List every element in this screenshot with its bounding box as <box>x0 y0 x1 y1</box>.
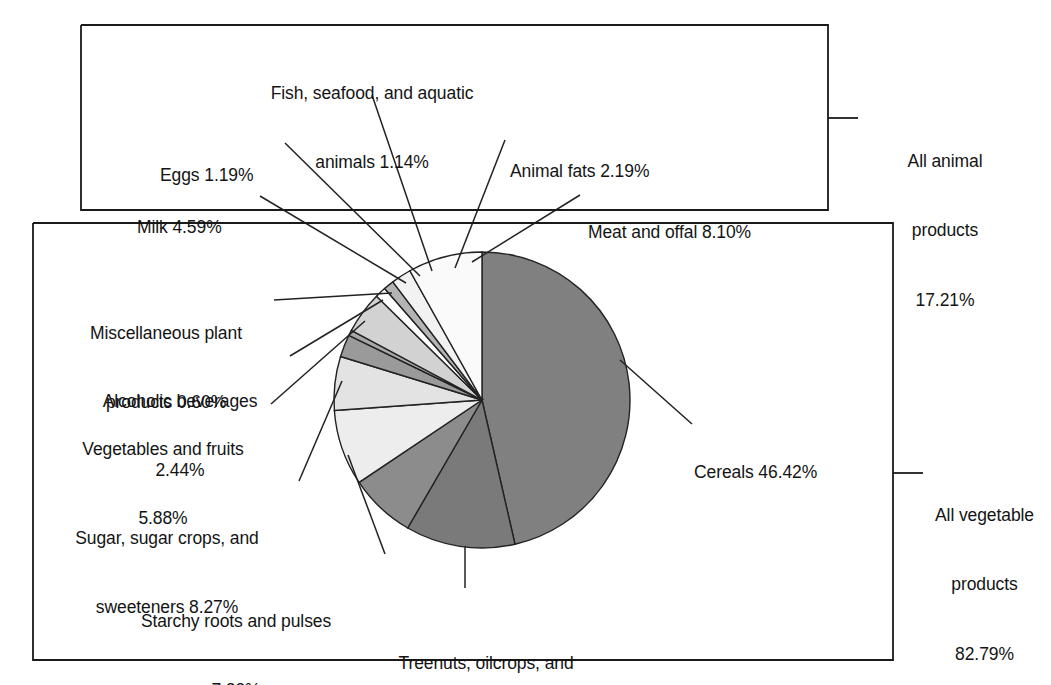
label-treenuts-line1: Treenuts, oilcrops, and <box>362 652 610 675</box>
label-group-all-animal-products: All animal products 17.21% <box>860 104 1030 358</box>
label-group-animal-line3: 17.21% <box>860 289 1030 312</box>
label-treenuts-oilcrops-vegetable-oils: Treenuts, oilcrops, and vegetable oils 1… <box>362 606 610 685</box>
label-group-animal-line1: All animal <box>860 150 1030 173</box>
label-starchy-roots-and-pulses: Starchy roots and pulses 7.23% <box>112 564 360 685</box>
label-cereals: Cereals 46.42% <box>694 415 934 530</box>
label-group-animal-line2: products <box>860 219 1030 242</box>
label-meat-and-offal: Meat and offal 8.10% <box>588 175 868 290</box>
label-sugar-line1: Sugar, sugar crops, and <box>42 527 292 550</box>
label-milk-line1: Milk 4.59% <box>137 216 357 239</box>
label-group-vegetable-line1: All vegetable <box>918 504 1051 527</box>
label-starchy-line2: 7.23% <box>112 679 360 685</box>
label-meat-line1: Meat and offal 8.10% <box>588 221 868 244</box>
leader-line-cereals <box>620 360 692 424</box>
label-fish-line1: Fish, seafood, and aquatic <box>242 82 502 105</box>
label-milk: Milk 4.59% <box>137 170 357 285</box>
label-group-vegetable-line2: products <box>918 573 1051 596</box>
pie-slices <box>334 252 630 548</box>
pie-chart-figure: Fish, seafood, and aquatic animals 1.14%… <box>0 0 1051 685</box>
leader-line-sugar <box>299 381 342 481</box>
label-starchy-line1: Starchy roots and pulses <box>112 610 360 633</box>
label-group-all-vegetable-products: All vegetable products 82.79% <box>918 458 1051 685</box>
label-cereals-line1: Cereals 46.42% <box>694 461 934 484</box>
label-group-vegetable-line3: 82.79% <box>918 643 1051 666</box>
label-veg-fruit-line1: Vegetables and fruits <box>60 438 266 461</box>
label-misc-plant-line1: Miscellaneous plant <box>58 322 274 345</box>
